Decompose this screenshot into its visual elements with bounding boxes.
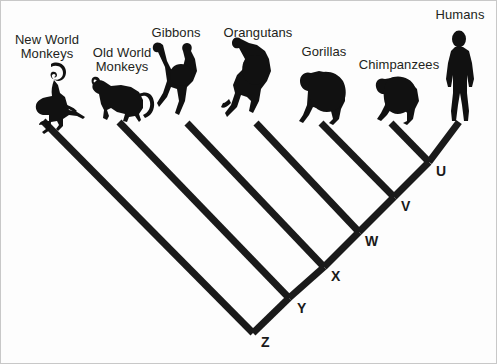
cladogram-figure: New World MonkeysOld World MonkeysGibbon… [0,0,497,364]
branch-humans [429,122,459,162]
taxon-label-gibbons: Gibbons [149,26,203,40]
node-x-label: X [331,269,340,283]
human-silhouette-icon [446,31,474,122]
branch-gorillas [321,123,394,197]
node-v-label: V [401,199,410,213]
node-y-label: Y [297,301,306,315]
branch-old-world-monkeys [119,122,289,298]
taxon-label-orangutans: Orangutans [217,26,299,40]
taxon-label-old-world-monkeys: Old World Monkeys [80,46,164,73]
taxon-label-gorillas: Gorillas [297,45,351,59]
branch-spine-y-x [289,267,324,298]
chimpanzee-silhouette-icon [376,77,419,125]
branch-spine-z-y [253,298,289,333]
branch-gibbons [187,123,324,267]
branch-spine-v-u [394,162,429,197]
taxon-label-chimpanzees: Chimpanzees [357,58,441,72]
monkey-silhouette-icon [92,77,155,122]
branch-layer [43,121,459,333]
branch-spine-x-w [324,232,359,267]
orangutan-silhouette-icon [221,38,271,117]
branch-chimpanzees [391,123,429,162]
taxon-label-new-world-monkeys: New World Monkeys [5,33,89,60]
node-u-label: U [436,164,446,178]
node-z-label: Z [261,335,270,349]
taxon-label-humans: Humans [431,8,489,22]
gorilla-silhouette-icon [299,71,346,125]
branch-spine-w-v [359,197,394,232]
node-w-label: W [365,234,378,248]
monkey-silhouette-icon [36,63,85,134]
